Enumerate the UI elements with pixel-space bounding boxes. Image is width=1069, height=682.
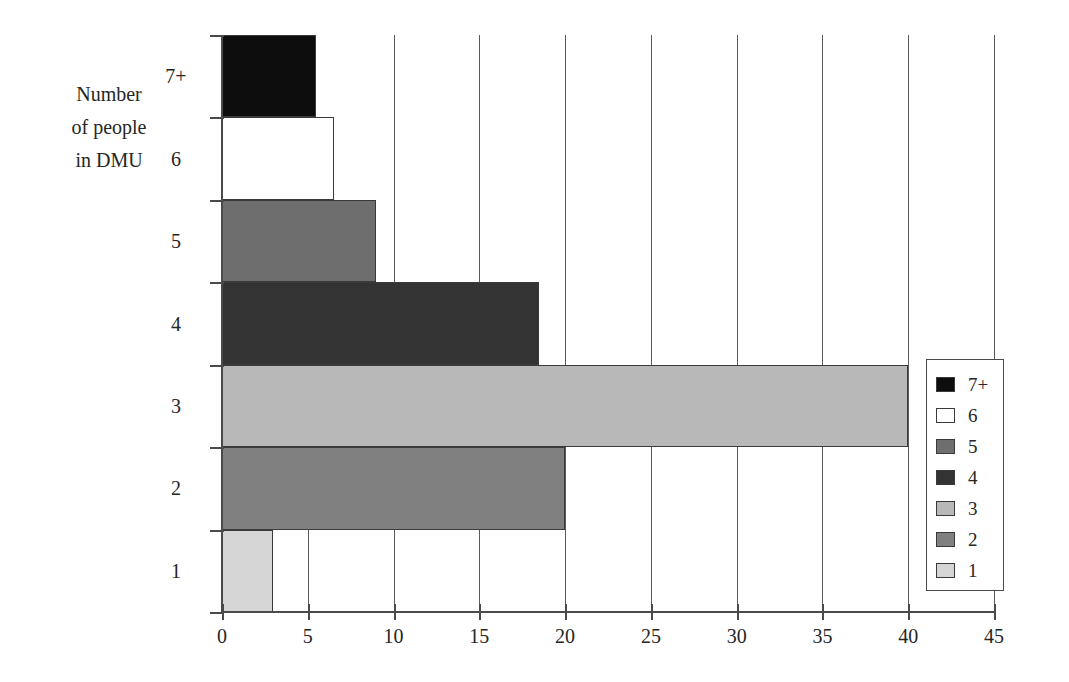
x-axis-line [222, 611, 996, 613]
y-tick-label-6: 6 [150, 147, 202, 170]
legend-swatch-2 [936, 532, 955, 547]
x-tick-label-5: 5 [278, 625, 338, 648]
x-tick-5 [308, 604, 310, 620]
x-tick-label-35: 35 [792, 625, 852, 648]
legend-swatch-1 [936, 563, 955, 578]
y-tick-0 [210, 35, 224, 37]
bar-4[interactable] [222, 282, 539, 364]
legend-swatch-3 [936, 501, 955, 516]
x-tick-label-30: 30 [707, 625, 767, 648]
y-axis-title-line-2: of people [34, 111, 184, 144]
bar-band-5 [222, 200, 994, 282]
legend-label-7+: 7+ [968, 375, 988, 394]
bar-2[interactable] [222, 447, 565, 529]
bar-band-1 [222, 530, 994, 612]
legend-swatch-5 [936, 439, 955, 454]
bar-6[interactable] [222, 117, 334, 199]
x-tick-15 [479, 604, 481, 620]
y-tick-label-3: 3 [150, 394, 202, 417]
x-tick-label-10: 10 [364, 625, 424, 648]
bar-band-2 [222, 447, 994, 529]
y-tick-3 [210, 282, 224, 284]
x-tick-label-0: 0 [192, 625, 252, 648]
x-tick-10 [394, 604, 396, 620]
legend-item-1[interactable]: 1 [927, 555, 1003, 586]
x-tick-label-25: 25 [621, 625, 681, 648]
legend-label-4: 4 [968, 468, 978, 487]
x-tick-35 [822, 604, 824, 620]
legend-label-6: 6 [968, 406, 978, 425]
x-tick-40 [908, 604, 910, 620]
y-tick-label-1: 1 [150, 559, 202, 582]
bar-1[interactable] [222, 530, 273, 612]
y-tick-2 [210, 200, 224, 202]
y-tick-6 [210, 530, 224, 532]
legend-label-1: 1 [968, 561, 978, 580]
x-tick-20 [565, 604, 567, 620]
x-tick-25 [651, 604, 653, 620]
y-tick-label-2: 2 [150, 477, 202, 500]
bar-7+[interactable] [222, 35, 316, 117]
legend-item-7+[interactable]: 7+ [927, 369, 1003, 400]
bar-band-4 [222, 282, 994, 364]
legend-label-2: 2 [968, 530, 978, 549]
legend-label-5: 5 [968, 437, 978, 456]
legend-swatch-7+ [936, 377, 955, 392]
y-tick-4 [210, 365, 224, 367]
x-tick-30 [737, 604, 739, 620]
legend-swatch-4 [936, 470, 955, 485]
legend-item-3[interactable]: 3 [927, 493, 1003, 524]
legend-item-6[interactable]: 6 [927, 400, 1003, 431]
x-tick-label-15: 15 [449, 625, 509, 648]
legend: 7+654321 [926, 359, 1004, 591]
x-tick-label-20: 20 [535, 625, 595, 648]
bar-3[interactable] [222, 365, 908, 447]
y-tick-label-7+: 7+ [150, 65, 202, 88]
bar-5[interactable] [222, 200, 376, 282]
legend-item-2[interactable]: 2 [927, 524, 1003, 555]
legend-label-3: 3 [968, 499, 978, 518]
y-axis-line [221, 35, 223, 613]
legend-item-4[interactable]: 4 [927, 462, 1003, 493]
bar-band-6 [222, 117, 994, 199]
legend-item-5[interactable]: 5 [927, 431, 1003, 462]
x-tick-45 [994, 604, 996, 620]
x-tick-label-40: 40 [878, 625, 938, 648]
bar-band-7+ [222, 35, 994, 117]
x-tick-label-45: 45 [964, 625, 1024, 648]
legend-swatch-6 [936, 408, 955, 423]
y-tick-7 [210, 612, 224, 614]
y-tick-5 [210, 447, 224, 449]
y-tick-label-5: 5 [150, 230, 202, 253]
plot-area [222, 35, 994, 612]
y-tick-1 [210, 117, 224, 119]
y-tick-label-4: 4 [150, 312, 202, 335]
bar-band-3 [222, 365, 994, 447]
